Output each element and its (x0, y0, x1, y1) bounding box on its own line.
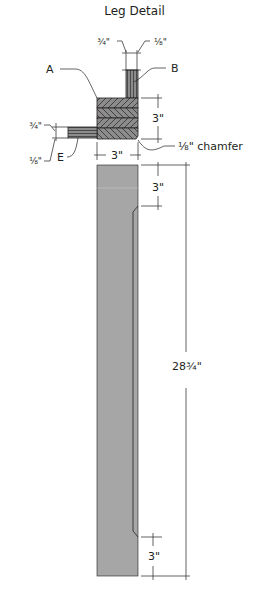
part-e-side-apron (68, 127, 97, 138)
dim-top-left: ¾" (97, 37, 110, 47)
label-a: A (46, 63, 54, 76)
dim-block-height: 3" (152, 112, 164, 125)
leader-a (60, 69, 97, 98)
leg-detail-drawing: ¾" ⅛" A B 3" 3" ⅛" chamfer ¾" ⅛" E (0, 0, 269, 596)
dim-block-width: 3" (111, 149, 123, 162)
side-dimension-lines (44, 123, 68, 161)
top-dimension-lines (117, 41, 150, 70)
label-e: E (57, 151, 64, 164)
dim-chamfer: ⅛" chamfer (178, 140, 243, 153)
part-a-leg-block (97, 98, 138, 139)
dim-leg-top-taper: 3" (152, 181, 164, 194)
dim-leg-total: 28¾" (172, 360, 202, 373)
part-b-apron (126, 70, 138, 98)
leader-chamfer (138, 140, 175, 150)
label-b: B (171, 62, 179, 75)
leg-top-taper-dimension (141, 162, 190, 210)
dim-leg-bottom-taper: 3" (148, 550, 160, 563)
dim-top-right: ⅛" (154, 37, 167, 47)
leg-elevation (97, 165, 138, 576)
leader-e (67, 138, 78, 157)
dim-side-thickness: ¾" (29, 121, 42, 131)
dim-side-offset: ⅛" (29, 156, 42, 166)
